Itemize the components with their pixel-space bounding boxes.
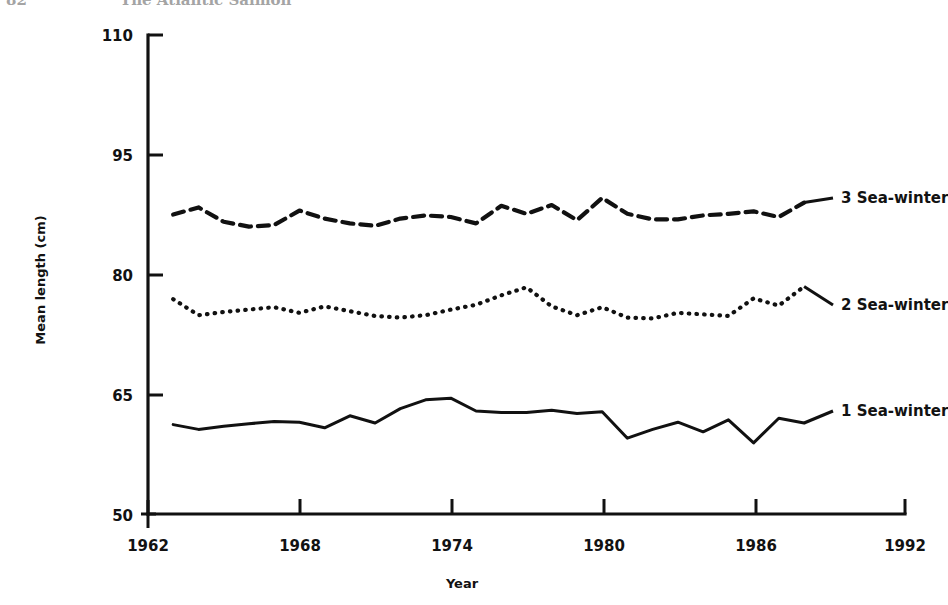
x-tick-label: 1968 [279, 537, 321, 555]
figure-page: 82 The Atlantic Salmon 110 95 80 65 50 [0, 0, 948, 605]
series-label-1-sea-winter: 1 Sea-winter [841, 402, 948, 420]
y-axis-tick-labels: 110 95 80 65 50 [102, 27, 133, 525]
y-axis-ticks [141, 155, 163, 528]
x-tick-label: 1992 [884, 537, 926, 555]
series-line-1-sea-winter [173, 398, 804, 443]
y-tick-label: 110 [102, 27, 133, 45]
y-tick-label: 80 [112, 267, 133, 285]
x-tick-label: 1986 [735, 537, 777, 555]
x-tick-label: 1974 [431, 537, 473, 555]
x-tick-label: 1980 [583, 537, 625, 555]
x-axis-ticks [300, 499, 756, 514]
series-line-3-sea-winter [173, 198, 804, 227]
y-tick-label: 50 [112, 507, 133, 525]
series-label-leaders [804, 198, 833, 423]
series-label-3-sea-winter: 3 Sea-winter [841, 189, 948, 207]
series-label-2-sea-winter: 2 Sea-winter [841, 296, 948, 314]
y-tick-label: 65 [112, 387, 133, 405]
mean-length-by-year-chart: 110 95 80 65 50 1962 1968 1974 1980 1986… [0, 0, 948, 605]
series-line-2-sea-winter [173, 287, 804, 319]
y-tick-label: 95 [112, 147, 133, 165]
leader-2-sea-winter [804, 287, 833, 306]
x-tick-label: 1962 [127, 537, 169, 555]
leader-3-sea-winter [804, 198, 833, 203]
x-axis-title: Year [445, 576, 479, 591]
y-axis-title: Mean length (cm) [33, 215, 48, 344]
leader-1-sea-winter [804, 411, 833, 423]
series-group [173, 198, 804, 443]
x-axis-tick-labels: 1962 1968 1974 1980 1986 1992 [127, 537, 926, 555]
